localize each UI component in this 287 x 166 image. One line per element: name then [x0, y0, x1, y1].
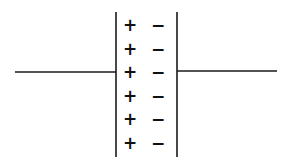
negative-charge: −	[151, 86, 165, 106]
capacitor-diagram: ++++++−−−−−−	[0, 0, 287, 166]
positive-charge: +	[123, 86, 137, 106]
negative-charge: −	[151, 133, 165, 153]
positive-charge: +	[123, 133, 137, 153]
negative-charge: −	[151, 15, 165, 35]
negative-charge: −	[151, 62, 165, 82]
charges-group: ++++++−−−−−−	[123, 15, 165, 153]
negative-charge: −	[151, 39, 165, 59]
positive-charge: +	[123, 15, 137, 35]
negative-charge: −	[151, 109, 165, 129]
positive-charge: +	[123, 62, 137, 82]
positive-charge: +	[123, 39, 137, 59]
positive-charge: +	[123, 109, 137, 129]
